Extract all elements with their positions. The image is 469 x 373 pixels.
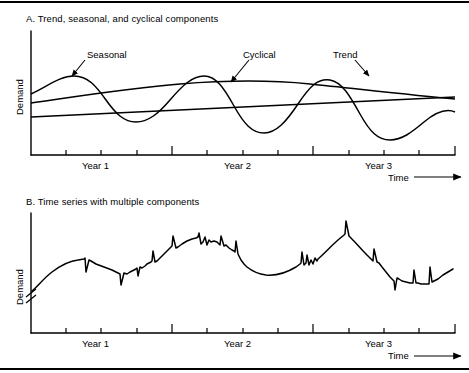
- annotation-seasonal: Seasonal: [87, 49, 127, 60]
- panel-b-x-axis-label: Time: [388, 350, 409, 361]
- panel-a-x-ticks: [66, 146, 455, 155]
- panel-b-x-ticks: [66, 324, 455, 333]
- panel-b-xtick-year-3: Year 3: [365, 338, 392, 349]
- annotation-trend: Trend: [333, 49, 357, 60]
- panel-a-y-axis-label: Demand: [14, 79, 25, 115]
- panel-a-trend-line: [31, 97, 455, 117]
- panel-a-x-axis-label: Time: [388, 172, 409, 183]
- panel-b-xtick-year-1: Year 1: [82, 338, 109, 349]
- annotation-cyclical: Cyclical: [243, 49, 276, 60]
- panel-b-y-axis-label: Demand: [14, 269, 25, 305]
- cyclical-leader-arrow: [231, 60, 249, 82]
- figure-container: A. Trend, seasonal, and cyclical compone…: [0, 0, 469, 373]
- panel-a-xtick-year-1: Year 1: [82, 160, 109, 171]
- seasonal-leader-arrow: [72, 60, 85, 76]
- panel-b-xtick-year-2: Year 2: [224, 338, 251, 349]
- panel-a-xtick-year-3: Year 3: [365, 160, 392, 171]
- panel-b-observed-series: [32, 221, 453, 291]
- trend-leader-arrow: [355, 60, 369, 76]
- panel-a-xtick-year-2: Year 2: [224, 160, 251, 171]
- panel-a-seasonal-curve: [31, 76, 455, 140]
